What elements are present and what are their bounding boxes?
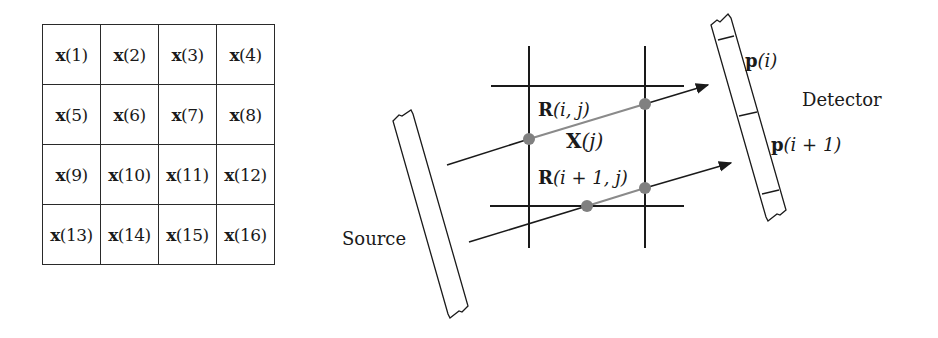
pixel-arg: (j): [582, 129, 604, 153]
ray-i: [447, 85, 708, 165]
projection-diagram: [0, 0, 938, 338]
detector-bin-divider: [762, 190, 779, 194]
detector-bin-label-i-plus-1: p(i + 1): [771, 134, 841, 155]
detector-bar: [711, 14, 786, 221]
ray-weight-symbol: R: [538, 99, 553, 120]
pixel-value-label: X(j): [566, 129, 603, 153]
intersection-point: [523, 133, 535, 145]
detector-bin-symbol: p: [771, 134, 784, 155]
source-bar: [393, 110, 468, 318]
pixel-symbol: X: [566, 129, 582, 153]
detector-bin-arg: (i + 1): [784, 134, 842, 155]
intersection-point: [639, 182, 651, 194]
detector-bin-label-i: p(i): [745, 50, 777, 71]
ray-weight-label-i: R(i, j): [538, 99, 590, 120]
ray-weight-arg: (i, j): [553, 99, 590, 120]
detector-bin-divider: [739, 112, 757, 116]
detector-bin-divider: [718, 36, 734, 40]
source-label: Source: [342, 228, 406, 249]
intersection-point: [639, 98, 651, 110]
ray-weight-arg: (i + 1, j): [553, 167, 628, 188]
detector-bin-arg: (i): [758, 50, 778, 71]
ray-weight-label-i-plus-1: R(i + 1, j): [538, 167, 628, 188]
intersection-point: [581, 200, 593, 212]
detector-bin-symbol: p: [745, 50, 758, 71]
detector-label: Detector: [802, 89, 882, 110]
ray-weight-symbol: R: [538, 167, 553, 188]
